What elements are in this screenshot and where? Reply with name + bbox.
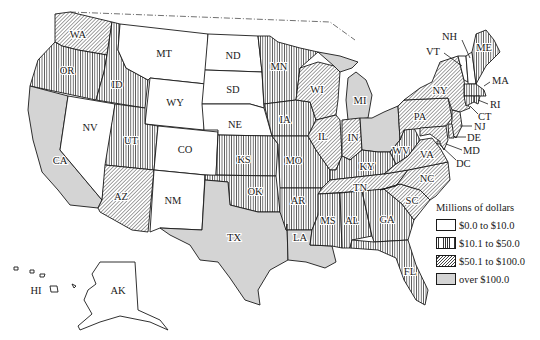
leader-RI [478, 100, 488, 104]
label-DE: DE [467, 132, 481, 143]
label-NJ: NJ [474, 121, 486, 132]
label-MT: MT [156, 48, 172, 59]
label-KS: KS [237, 154, 251, 165]
label-NE: NE [228, 119, 242, 130]
legend-swatch-gray [436, 273, 456, 285]
legend-swatch-vertical [436, 237, 456, 249]
label-WV: WV [392, 145, 410, 156]
state-MA[interactable] [464, 84, 486, 96]
label-NC: NC [420, 173, 435, 184]
legend-item-3: over $100.0 [436, 270, 540, 288]
label-OK: OK [247, 186, 263, 197]
label-MS: MS [320, 215, 335, 226]
label-NV: NV [82, 122, 98, 133]
label-VA: VA [420, 149, 434, 160]
leader-NH [462, 40, 470, 58]
state-FL[interactable] [350, 240, 428, 305]
label-SD: SD [226, 84, 240, 95]
state-CT[interactable] [464, 96, 474, 106]
label-MI: MI [354, 95, 367, 106]
label-UT: UT [124, 135, 139, 146]
label-KY: KY [359, 161, 375, 172]
label-IN: IN [347, 132, 358, 143]
label-TN: TN [353, 182, 367, 193]
legend-label: $50.1 to $100.0 [459, 256, 525, 267]
legend-label: over $100.0 [459, 274, 509, 285]
label-RI: RI [490, 99, 501, 110]
label-AL: AL [345, 215, 359, 226]
state-DC[interactable] [437, 141, 440, 144]
label-GA: GA [379, 214, 395, 225]
label-SC: SC [406, 195, 419, 206]
label-HI: HI [30, 285, 42, 296]
label-MA: MA [492, 75, 509, 86]
label-WY: WY [166, 97, 184, 108]
label-MD: MD [463, 145, 480, 156]
legend-label: $0.0 to $10.0 [459, 220, 514, 231]
label-CA: CA [53, 155, 68, 166]
label-IL: IL [318, 131, 328, 142]
label-FL: FL [404, 266, 416, 277]
label-AR: AR [291, 195, 306, 206]
us-choropleth-map: WA OR CA ID NV MT WY UT AZ CO NM ND SD N… [0, 0, 540, 340]
label-MO: MO [286, 155, 303, 166]
label-NH: NH [442, 31, 458, 42]
label-ID: ID [111, 79, 122, 90]
label-ME: ME [476, 42, 492, 53]
legend-item-0: $0.0 to $10.0 [436, 216, 540, 234]
leader-MD [446, 144, 462, 150]
label-IA: IA [279, 114, 290, 125]
label-DC: DC [456, 158, 471, 169]
legend-swatch-white [436, 219, 456, 231]
label-MN: MN [271, 61, 288, 72]
label-NY: NY [432, 85, 448, 96]
label-VT: VT [426, 46, 441, 57]
legend-label: $10.1 to $50.0 [459, 238, 520, 249]
label-NM: NM [165, 195, 183, 206]
label-AZ: AZ [114, 191, 128, 202]
label-CO: CO [178, 144, 193, 155]
label-WA: WA [70, 29, 87, 40]
label-LA: LA [293, 232, 307, 243]
legend-swatch-diagonal [436, 255, 456, 267]
label-PA: PA [414, 111, 427, 122]
legend-item-2: $50.1 to $100.0 [436, 252, 540, 270]
legend: Millions of dollars $0.0 to $10.0 $10.1 … [436, 202, 540, 288]
state-RI[interactable] [474, 96, 480, 104]
legend-item-1: $10.1 to $50.0 [436, 234, 540, 252]
label-ND: ND [225, 50, 241, 61]
label-OR: OR [60, 65, 75, 76]
label-TX: TX [227, 232, 241, 243]
state-HI[interactable] [14, 267, 76, 292]
leader-MA [484, 82, 490, 86]
leader-CT [470, 106, 478, 114]
label-AK: AK [110, 285, 126, 296]
label-WI: WI [310, 84, 324, 95]
legend-title: Millions of dollars [436, 202, 540, 213]
